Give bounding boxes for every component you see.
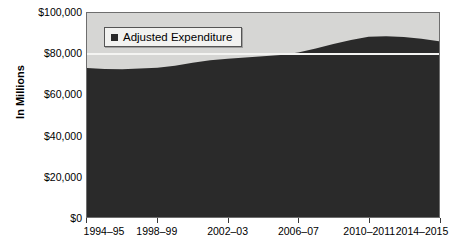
x-axis-tick-mark bbox=[157, 218, 158, 223]
filled-square-icon bbox=[111, 34, 118, 41]
adjusted-expenditure-area bbox=[87, 36, 439, 217]
x-axis-tick-mark bbox=[228, 218, 229, 223]
x-axis-tick-mark bbox=[440, 218, 441, 223]
y-axis-tick-label: $0 bbox=[10, 213, 82, 223]
plot-area: Adjusted Expenditure bbox=[86, 12, 440, 218]
x-axis-tick-label: 1998–99 bbox=[136, 225, 177, 237]
y-axis-tick-labels: $100,000$80,000$60,000$40,000$20,000$0 bbox=[8, 0, 82, 248]
x-axis-tick-label: 2006–07 bbox=[278, 225, 319, 237]
y-axis-tick-label: $80,000 bbox=[10, 48, 82, 58]
legend-item-label: Adjusted Expenditure bbox=[123, 31, 232, 43]
x-axis: 1994–951998–992002–032006–072010–2011201… bbox=[86, 218, 440, 248]
x-axis-tick-mark bbox=[298, 218, 299, 223]
x-axis-tick-mark bbox=[86, 218, 87, 223]
x-axis-tick-mark bbox=[369, 218, 370, 223]
chart-legend: Adjusted Expenditure bbox=[104, 27, 242, 47]
y-axis-tick-label: $60,000 bbox=[10, 89, 82, 99]
y-axis-tick-label: $100,000 bbox=[10, 7, 82, 17]
x-axis-tick-label: 2014–2015 bbox=[396, 225, 449, 237]
x-axis-tick-label: 1994–95 bbox=[84, 225, 125, 237]
area-chart: In Millions $100,000$80,000$60,000$40,00… bbox=[0, 0, 476, 248]
y-axis-tick-label: $40,000 bbox=[10, 131, 82, 141]
gridline bbox=[87, 53, 439, 55]
x-axis-tick-label: 2002–03 bbox=[207, 225, 248, 237]
y-axis-tick-label: $20,000 bbox=[10, 172, 82, 182]
x-axis-tick-label: 2010–2011 bbox=[343, 225, 395, 237]
